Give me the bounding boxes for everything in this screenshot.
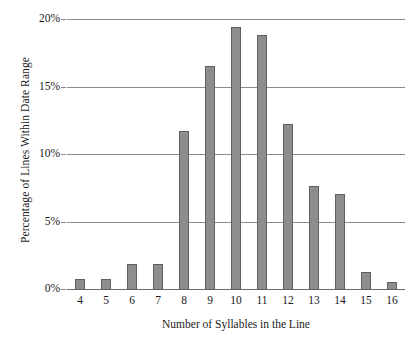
x-axis-tick-label: 14 [334, 295, 346, 307]
bar [283, 124, 294, 290]
bar [361, 272, 372, 290]
y-axis-tick-mark [61, 222, 66, 223]
y-axis-tick-label: 5% [45, 216, 60, 228]
y-axis-tick-label: 20% [39, 13, 60, 25]
bar [75, 279, 86, 290]
x-axis-tick-label: 10 [230, 295, 242, 307]
bar [153, 264, 164, 290]
bar-chart-figure: Percentage of Lines Within Date Range 0%… [0, 0, 419, 350]
bars-group [67, 20, 405, 290]
x-axis-tick-label: 11 [256, 295, 267, 307]
bar [309, 186, 320, 290]
plot-area: 0%5%10%15%20% 45678910111213141516 [67, 20, 405, 290]
bar [387, 282, 398, 290]
y-axis-tick-mark [61, 154, 66, 155]
bar [179, 131, 190, 290]
x-axis-tick-label: 7 [155, 295, 161, 307]
y-axis-tick-label: 10% [39, 148, 60, 160]
bar [101, 279, 112, 290]
y-axis-title: Percentage of Lines Within Date Range [14, 5, 36, 295]
x-axis-tick-label: 16 [386, 295, 398, 307]
x-axis-tick-label: 15 [360, 295, 372, 307]
bar [257, 35, 268, 290]
bar [335, 194, 346, 290]
y-axis-tick-label: 15% [39, 81, 60, 93]
x-axis-tick-label: 13 [308, 295, 320, 307]
x-axis-tick-label: 5 [103, 295, 109, 307]
y-axis-tick-label: 0% [45, 283, 60, 295]
bar [127, 264, 138, 290]
x-axis-tick-label: 9 [207, 295, 213, 307]
y-axis-tick-mark [61, 289, 66, 290]
y-axis-tick-mark [61, 87, 66, 88]
bar [205, 66, 216, 290]
x-axis-tick-label: 12 [282, 295, 294, 307]
x-axis-title: Number of Syllables in the Line [67, 318, 405, 330]
x-axis-tick-label: 6 [129, 295, 135, 307]
x-axis-tick-label: 8 [181, 295, 187, 307]
bar [231, 27, 242, 290]
x-axis-tick-label: 4 [77, 295, 83, 307]
y-axis-tick-mark [61, 19, 66, 20]
